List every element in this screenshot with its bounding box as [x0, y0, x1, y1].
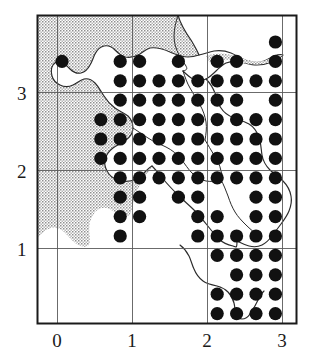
record-dot	[230, 307, 243, 320]
distribution-map-figure: 0 1 2 3 1 2 3	[0, 0, 312, 364]
record-dot	[172, 191, 185, 204]
record-dot	[211, 171, 224, 184]
record-dot	[172, 171, 185, 184]
record-dot	[269, 210, 282, 223]
record-dot	[269, 268, 282, 281]
record-dot	[114, 191, 127, 204]
record-dot	[191, 210, 204, 223]
map-canvas	[0, 0, 312, 364]
record-dot	[269, 249, 282, 262]
record-dot	[249, 191, 262, 204]
record-dot	[230, 288, 243, 301]
record-dot	[191, 94, 204, 107]
record-dot	[172, 152, 185, 165]
y-tick-label-1: 1	[17, 240, 27, 259]
record-dot	[114, 55, 127, 68]
record-dot	[211, 210, 224, 223]
y-tick-label-2: 2	[17, 162, 27, 181]
record-dot	[55, 55, 68, 68]
record-dot	[269, 307, 282, 320]
record-dot	[172, 132, 185, 145]
record-dot	[114, 152, 127, 165]
record-dot	[94, 132, 107, 145]
record-dot	[114, 229, 127, 242]
record-dot	[269, 229, 282, 242]
record-dot	[211, 74, 224, 87]
record-dot	[249, 249, 262, 262]
record-dot	[230, 55, 243, 68]
record-dot	[172, 94, 185, 107]
record-dot	[152, 113, 165, 126]
x-tick-label-1: 1	[127, 331, 137, 350]
record-dot	[133, 55, 146, 68]
record-dot	[249, 171, 262, 184]
record-dot	[269, 152, 282, 165]
record-dot	[94, 113, 107, 126]
record-dot	[249, 268, 262, 281]
record-dot	[152, 94, 165, 107]
record-dot	[249, 210, 262, 223]
record-dot	[172, 74, 185, 87]
record-dot	[114, 74, 127, 87]
record-dot	[269, 191, 282, 204]
record-dot	[230, 152, 243, 165]
y-tick-label-3: 3	[17, 84, 27, 103]
record-dot	[211, 113, 224, 126]
record-dot	[249, 113, 262, 126]
record-dot	[249, 74, 262, 87]
record-dot	[133, 210, 146, 223]
record-dot	[211, 94, 224, 107]
record-dot	[230, 229, 243, 242]
record-dot	[230, 113, 243, 126]
record-dot	[133, 113, 146, 126]
record-dot	[269, 55, 282, 68]
record-dot	[133, 132, 146, 145]
record-dot	[191, 152, 204, 165]
record-dot	[133, 74, 146, 87]
x-tick-label-2: 2	[202, 331, 212, 350]
record-dot	[249, 229, 262, 242]
record-dot	[230, 132, 243, 145]
record-dot	[249, 307, 262, 320]
record-dot	[249, 132, 262, 145]
record-dot	[230, 249, 243, 262]
record-dot	[172, 113, 185, 126]
record-dot	[172, 55, 185, 68]
record-dot	[114, 171, 127, 184]
record-dot	[249, 288, 262, 301]
record-dot	[230, 268, 243, 281]
record-dot	[191, 171, 204, 184]
record-dot	[269, 94, 282, 107]
record-dot	[133, 94, 146, 107]
record-dot	[230, 74, 243, 87]
record-dot	[114, 113, 127, 126]
record-dot	[211, 132, 224, 145]
record-dot	[211, 307, 224, 320]
record-dot	[211, 152, 224, 165]
record-dot	[211, 229, 224, 242]
x-tick-label-3: 3	[277, 331, 287, 350]
record-dot	[133, 171, 146, 184]
record-dot	[191, 74, 204, 87]
record-dot	[211, 55, 224, 68]
record-dot	[211, 249, 224, 262]
record-dot	[230, 94, 243, 107]
record-dot	[269, 74, 282, 87]
record-dot	[152, 152, 165, 165]
record-dot	[114, 132, 127, 145]
record-dot	[152, 132, 165, 145]
record-dot	[152, 171, 165, 184]
record-dot	[269, 132, 282, 145]
record-dot	[230, 171, 243, 184]
record-dot	[269, 113, 282, 126]
record-dot	[269, 288, 282, 301]
record-dot	[269, 35, 282, 48]
x-tick-label-0: 0	[52, 331, 62, 350]
figure-page: 0 1 2 3 1 2 3	[0, 0, 312, 364]
record-dot	[114, 210, 127, 223]
record-dot	[191, 132, 204, 145]
record-dot	[114, 94, 127, 107]
record-dot	[133, 191, 146, 204]
record-dot	[211, 288, 224, 301]
record-dot	[133, 152, 146, 165]
